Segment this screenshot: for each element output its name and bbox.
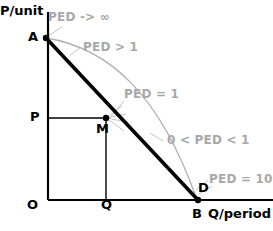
point-label-a: A	[28, 30, 38, 43]
point-marker-a	[43, 35, 49, 41]
annotation-ped-infinite: PED -> ∞	[48, 11, 110, 23]
annotation-ped-inelastic: 0 < PED < 1	[167, 134, 250, 146]
leader-inelastic	[150, 133, 163, 141]
leader-elastic	[70, 48, 80, 55]
point-label-q: Q	[101, 198, 112, 211]
ped-diagram: P/unit Q/period O A M D B P Q PED -> ∞ P…	[0, 0, 273, 231]
annotation-ped-zero: PED = 10	[209, 173, 273, 185]
point-label-b: B	[192, 207, 202, 220]
x-axis-title: Q/period	[208, 207, 271, 220]
origin-label: O	[27, 198, 38, 211]
point-label-d: D	[198, 181, 209, 194]
annotation-ped-elastic: PED > 1	[83, 41, 138, 53]
annotation-ped-unitary: PED = 1	[124, 88, 179, 100]
y-axis-title: P/unit	[0, 4, 43, 17]
demand-curve	[46, 38, 198, 200]
diagram-canvas	[0, 0, 273, 231]
point-marker-b	[195, 197, 201, 203]
point-label-m: M	[96, 122, 109, 135]
point-label-p: P	[30, 110, 40, 123]
